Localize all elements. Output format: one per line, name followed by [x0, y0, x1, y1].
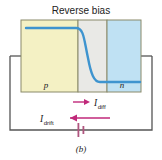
diffusion-current-arrow-head	[84, 99, 90, 105]
figure-title: Reverse bias	[52, 5, 110, 16]
battery-long-plate	[78, 123, 80, 137]
reverse-bias-pn-junction-figure: Reverse bias Idiff	[0, 0, 162, 160]
n-region-label: n	[120, 80, 125, 90]
drift-current-arrow-head	[70, 115, 77, 122]
drift-current-label: Idrift	[39, 114, 54, 126]
diffusion-current-annotation: Idiff	[73, 98, 106, 110]
diffusion-current-subscript: diff	[98, 104, 106, 110]
battery-short-plate	[83, 126, 85, 134]
figure-canvas: Reverse bias Idiff	[0, 0, 162, 160]
drift-current-subscript: drift	[44, 120, 54, 126]
figure-caption: (b)	[76, 144, 87, 154]
p-region	[21, 20, 78, 92]
p-region-label: p	[43, 80, 49, 90]
drift-current-annotation: Idrift	[39, 114, 110, 126]
diffusion-current-label: Idiff	[93, 98, 106, 110]
